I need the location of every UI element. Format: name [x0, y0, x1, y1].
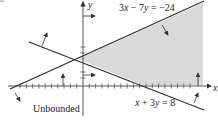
corner-mark: a.	[0, 0, 6, 4]
arrow-line2-direction	[42, 33, 47, 46]
arrow-line2-lower	[194, 93, 198, 103]
eq2-mid: + 3	[139, 97, 155, 108]
x-axis-label: x	[213, 83, 217, 93]
graph-canvas	[0, 0, 218, 120]
line2-equation-label: x + 3y = 8	[135, 98, 175, 108]
eq1-rhs: = −24	[149, 2, 175, 13]
graph-figure: a. y x 3x − 7y = −24 x + 3y = 8 Unbounde…	[0, 0, 218, 120]
feasible-region	[78, 3, 203, 85]
arrow-line1-lower	[15, 93, 20, 101]
y-axis-label: y	[88, 0, 92, 10]
eq2-rhs: = 8	[160, 97, 176, 108]
region-label: Unbounded	[33, 104, 80, 114]
eq1-mid: − 7	[128, 2, 144, 13]
line1-equation-label: 3x − 7y = −24	[119, 3, 175, 13]
